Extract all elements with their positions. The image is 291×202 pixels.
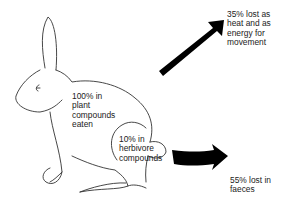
label-heat-loss: 35% lost as heat and as energy for movem…	[227, 10, 271, 48]
label-plant-compounds-eaten: 100% in plant compounds eaten	[72, 92, 115, 130]
label-faeces-loss: 55% lost in faeces	[230, 176, 271, 195]
label-herbivore-compounds: 10% in herbivore compounds	[119, 135, 162, 163]
heat-loss-arrow-icon	[159, 20, 224, 76]
energy-flow-diagram: 100% in plant compounds eaten 10% in her…	[0, 0, 291, 202]
faeces-loss-arrow-icon	[172, 144, 228, 170]
